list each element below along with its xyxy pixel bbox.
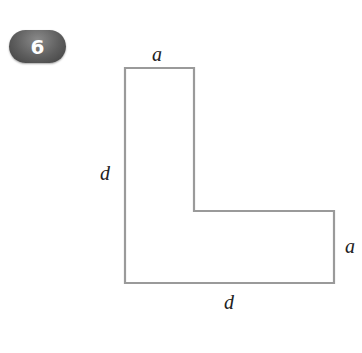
- label-top-width: a: [152, 44, 162, 64]
- label-bottom-width: d: [224, 292, 234, 312]
- l-shape-diagram: [0, 0, 362, 353]
- l-shape-outline: [125, 68, 334, 283]
- label-right-height: a: [345, 236, 355, 256]
- label-left-height: d: [100, 163, 110, 183]
